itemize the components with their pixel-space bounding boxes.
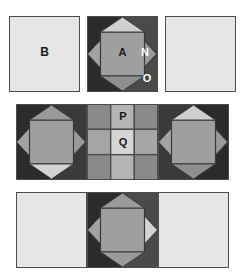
top-row-tile-plain-right — [165, 16, 236, 92]
plain-square-shape — [165, 16, 236, 92]
bottom-row-tile-plain-left — [16, 192, 87, 268]
cell-r2c2 — [111, 129, 135, 154]
figure-canvas: B A N O — [0, 0, 245, 279]
bottom-row — [16, 192, 229, 268]
bottom-row-tile-diamond-center — [87, 192, 158, 268]
top-row-tile-plain-left: B — [9, 16, 80, 92]
plain-square-shape — [158, 192, 229, 268]
diamond-block-shape — [87, 192, 158, 268]
top-row-tile-diamond-center: A N O — [87, 16, 158, 92]
cell-r3c1 — [87, 155, 111, 180]
middle-row-tile-diamond-left — [16, 104, 87, 180]
diamond-block-shape — [158, 104, 229, 180]
cell-r1c2 — [111, 104, 135, 129]
cell-r3c2 — [111, 155, 135, 180]
bottom-row-tile-plain-right — [158, 192, 229, 268]
cell-r1c1 — [87, 104, 111, 129]
middle-row-tile-grid-center: P Q — [87, 104, 158, 180]
cell-r2c3 — [134, 129, 158, 154]
middle-row-tile-diamond-right — [158, 104, 229, 180]
middle-row: P Q — [16, 104, 229, 180]
cell-r2c1 — [87, 129, 111, 154]
plain-square-shape — [16, 192, 87, 268]
diamond-block-shape — [16, 104, 87, 180]
cell-r1c3 — [134, 104, 158, 129]
top-row: B A N O — [9, 16, 236, 92]
diamond-block-shape — [87, 16, 158, 92]
cell-r3c3 — [134, 155, 158, 180]
grid-3x3-shape — [87, 104, 158, 180]
plain-square-shape — [9, 16, 80, 92]
